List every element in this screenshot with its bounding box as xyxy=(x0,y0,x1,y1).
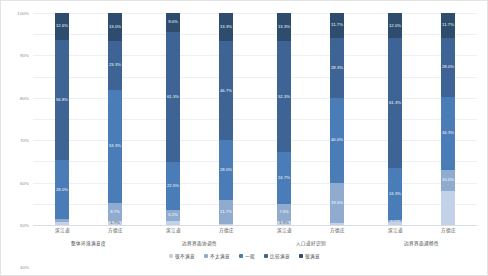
bar-segment[interactable]: 23.3% xyxy=(108,41,122,90)
bar-segment[interactable]: 28.0% xyxy=(219,140,233,199)
x-axis-labels: 滨江道方德庄滨江道方德庄滨江道方德庄滨江道方德庄整体环境满意度边界界面协调性入口… xyxy=(33,227,477,253)
gridline: 0% xyxy=(33,225,477,226)
bar-segment[interactable]: 24.7% xyxy=(277,152,291,204)
x-axis-category-label: 滨江道 xyxy=(277,227,292,233)
bar-segment[interactable]: 53.3% xyxy=(108,90,122,203)
bar-segment[interactable]: 1.7% xyxy=(108,221,122,225)
bar-segment[interactable]: 22.5% xyxy=(166,162,180,210)
bar-segment[interactable]: 40.0% xyxy=(330,98,344,183)
legend-label: 很满意 xyxy=(305,253,320,259)
x-axis-category-label: 方德庄 xyxy=(219,227,234,233)
legend-item[interactable]: 很满意 xyxy=(299,253,320,259)
segment-value-label: 61.3% xyxy=(167,95,179,99)
chart-container: 100%90%80%70%60%50%40%30%20%10%0% 12.6%5… xyxy=(0,0,488,276)
bar-segment[interactable]: 11.7% xyxy=(219,200,233,225)
legend-item[interactable]: 比较满意 xyxy=(264,253,290,259)
bar-segment[interactable]: 7.6% xyxy=(277,204,291,220)
segment-value-label: 19.0% xyxy=(331,201,343,205)
bar-slot: 11.7%28.0%34.3%10.0% xyxy=(441,13,455,225)
bar-segment[interactable]: 11.7% xyxy=(441,13,455,38)
legend-label: 不太满意 xyxy=(210,253,230,259)
stacked-bar[interactable]: 13.3%52.3%24.7%7.6%1.9% xyxy=(277,13,291,225)
bar-segment[interactable]: 5.2% xyxy=(166,210,180,221)
bars-layer: 12.6%56.8%28.0%13.0%23.3%53.3%8.7%1.7%9.… xyxy=(33,13,477,225)
chart-legend: 很不满意不太满意一般比较满意很满意 xyxy=(1,253,487,259)
bar-segment[interactable]: 13.0% xyxy=(108,13,122,41)
segment-value-label: 52.3% xyxy=(278,95,290,99)
bar-segment[interactable]: 56.8% xyxy=(55,40,69,160)
segment-value-label: 11.7% xyxy=(331,23,343,27)
bar-segment[interactable]: 24.3% xyxy=(388,168,402,220)
stacked-bar[interactable]: 11.7%28.0%34.3%10.0% xyxy=(441,13,455,225)
y-axis-tick-label: 80% xyxy=(20,95,29,100)
bar-slot: 9.0%61.3%22.5%5.2% xyxy=(166,13,180,225)
segment-value-label: 28.0% xyxy=(220,168,232,172)
segment-value-label: 24.3% xyxy=(389,192,401,196)
bar-segment[interactable]: 46.7% xyxy=(219,41,233,140)
x-axis-category-label: 方德庄 xyxy=(108,227,123,233)
segment-value-label: 61.3% xyxy=(389,101,401,105)
segment-value-label: 1.7% xyxy=(110,221,120,225)
segment-value-label: 22.5% xyxy=(167,184,179,188)
stacked-bar[interactable]: 9.0%61.3%22.5%5.2% xyxy=(166,13,180,225)
stacked-bar[interactable]: 13.3%46.7%28.0%11.7% xyxy=(219,13,233,225)
segment-value-label: 13.3% xyxy=(278,25,290,29)
bar-segment[interactable]: 12.6% xyxy=(55,13,69,40)
stacked-bar[interactable]: 13.0%23.3%53.3%8.7%1.7% xyxy=(108,13,122,225)
bar-segment[interactable]: 34.3% xyxy=(441,97,455,170)
x-axis-category-label: 滨江道 xyxy=(166,227,181,233)
bar-segment[interactable] xyxy=(219,224,233,225)
bar-segment[interactable]: 61.3% xyxy=(388,38,402,168)
segment-value-label: 56.8% xyxy=(56,98,68,102)
y-axis-tick-label: 90% xyxy=(20,53,29,58)
bar-segment[interactable]: 11.7% xyxy=(330,13,344,38)
y-axis-tick-label: 100% xyxy=(17,11,29,16)
bar-segment[interactable]: 28.3% xyxy=(330,38,344,98)
bar-segment[interactable] xyxy=(388,222,402,225)
plot-area: 100%90%80%70%60%50%40%30%20%10%0% 12.6%5… xyxy=(33,13,477,225)
x-axis-group-label: 入口道好识别 xyxy=(296,240,326,246)
y-axis-tick-label: 40% xyxy=(20,265,29,270)
bar-segment[interactable] xyxy=(441,191,455,225)
y-axis-tick-label: 70% xyxy=(20,138,29,143)
segment-value-label: 1.9% xyxy=(279,221,289,225)
legend-label: 很不满意 xyxy=(175,253,195,259)
bar-segment[interactable]: 9.0% xyxy=(166,13,180,32)
segment-value-label: 13.0% xyxy=(109,25,121,29)
x-axis-group-label: 整体环境满意度 xyxy=(71,240,106,246)
y-axis-tick-label: 60% xyxy=(20,180,29,185)
legend-item[interactable]: 一般 xyxy=(239,253,255,259)
segment-value-label: 24.7% xyxy=(278,176,290,180)
stacked-bar[interactable]: 12.0%61.3%24.3%1.2% xyxy=(388,13,402,225)
legend-item[interactable]: 不太满意 xyxy=(204,253,230,259)
bar-segment[interactable] xyxy=(55,222,69,225)
bar-segment[interactable]: 13.3% xyxy=(219,13,233,41)
bar-segment[interactable] xyxy=(166,221,180,225)
segment-value-label: 28.3% xyxy=(331,66,343,70)
bar-segment[interactable]: 10.0% xyxy=(441,170,455,191)
bar-segment[interactable]: 13.3% xyxy=(277,13,291,41)
bar-segment[interactable]: 52.3% xyxy=(277,41,291,152)
bar-segment[interactable]: 28.0% xyxy=(441,38,455,97)
x-axis-category-label: 方德庄 xyxy=(330,227,345,233)
legend-label: 比较满意 xyxy=(270,253,290,259)
bar-segment[interactable]: 8.7% xyxy=(108,203,122,221)
segment-value-label: 11.7% xyxy=(442,23,454,27)
bar-segment[interactable]: 61.3% xyxy=(166,32,180,162)
stacked-bar[interactable]: 12.6%56.8%28.0% xyxy=(55,13,69,225)
bar-segment[interactable]: 12.0% xyxy=(388,13,402,38)
segment-value-label: 34.3% xyxy=(442,131,454,135)
bar-slot: 11.7%28.3%40.0%19.0% xyxy=(330,13,344,225)
legend-swatch-icon xyxy=(204,254,208,258)
bar-segment[interactable]: 1.9% xyxy=(277,221,291,225)
stacked-bar[interactable]: 11.7%28.3%40.0%19.0% xyxy=(330,13,344,225)
legend-swatch-icon xyxy=(239,254,243,258)
segment-value-label: 53.3% xyxy=(109,144,121,148)
bar-slot: 12.0%61.3%24.3%1.2% xyxy=(388,13,402,225)
bar-segment[interactable]: 19.0% xyxy=(330,183,344,223)
segment-value-label: 5.2% xyxy=(168,213,178,217)
x-axis-category-label: 滨江道 xyxy=(55,227,70,233)
legend-item[interactable]: 很不满意 xyxy=(169,253,195,259)
bar-segment[interactable]: 28.0% xyxy=(55,160,69,219)
bar-segment[interactable] xyxy=(330,223,344,225)
